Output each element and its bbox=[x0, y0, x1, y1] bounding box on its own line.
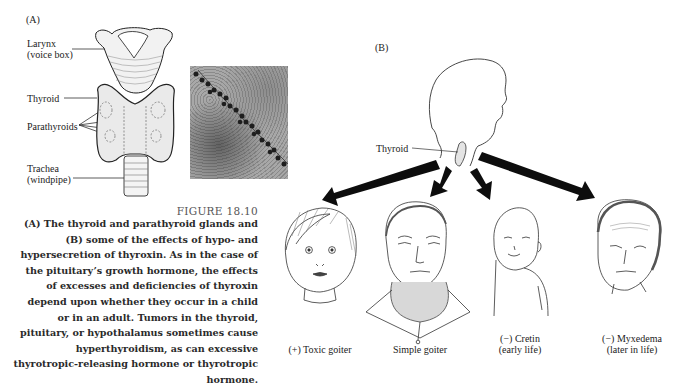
case-label-myxedema: (−) Myxedema (later in life) bbox=[592, 333, 672, 355]
case-label-cretin: (−) Cretin (early life) bbox=[485, 333, 555, 355]
simple-goiter-face bbox=[366, 202, 470, 344]
toxic-goiter-face bbox=[285, 208, 356, 303]
cretin-figure bbox=[494, 208, 548, 316]
myxedema-face bbox=[598, 200, 661, 294]
case-label-toxic-goiter: (+) Toxic goiter bbox=[275, 344, 365, 355]
case-label-simple-goiter: Simple goiter bbox=[375, 344, 465, 355]
